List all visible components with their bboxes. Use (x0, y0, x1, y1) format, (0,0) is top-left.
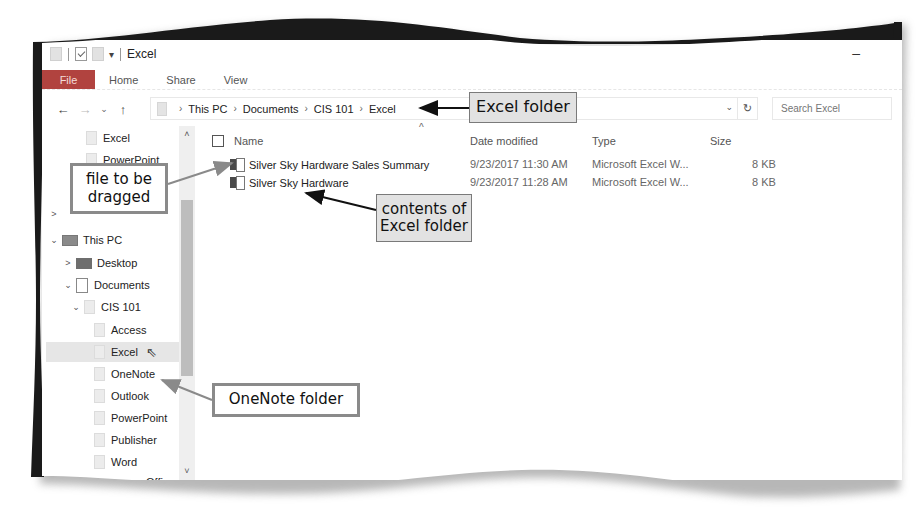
folder-icon (94, 345, 105, 359)
chevron-down-icon[interactable]: ⌄ (62, 280, 74, 290)
breadcrumb-excel[interactable]: Excel (369, 103, 396, 115)
tree-item-onenote[interactable]: OneNote (94, 364, 155, 384)
folder-icon (94, 367, 105, 381)
divider (120, 48, 121, 61)
tree-item-label: Excel (111, 346, 138, 358)
address-bar[interactable]: › This PC › Documents › CIS 101 › Excel … (150, 97, 758, 120)
breadcrumb-this-pc[interactable]: This PC (188, 103, 227, 115)
up-button[interactable]: ↑ (112, 102, 134, 117)
folder-icon (86, 131, 97, 145)
tree-item-excel-selected[interactable]: Excel ⇖ (46, 342, 179, 362)
file-row[interactable]: Silver Sky Hardware 9/23/2017 11:28 AM M… (204, 174, 804, 192)
tree-item-publisher[interactable]: Publisher (94, 430, 157, 450)
chevron-right-icon: › (179, 103, 182, 114)
folder-icon (94, 411, 105, 425)
tree-item-label: Desktop (97, 257, 137, 269)
forward-button[interactable]: → (74, 102, 96, 117)
mouse-pointer-icon: ⇖ (146, 345, 157, 360)
tab-home[interactable]: Home (95, 70, 152, 89)
date-modified-cell: 9/23/2017 11:30 AM (470, 158, 568, 170)
file-row[interactable]: Silver Sky Hardware Sales Summary 9/23/2… (204, 156, 804, 174)
date-modified-cell: 9/23/2017 11:28 AM (470, 176, 568, 188)
properties-icon[interactable] (50, 47, 62, 61)
breadcrumb-documents[interactable]: Documents (243, 103, 299, 115)
callout-excel-folder: Excel folder (469, 92, 577, 123)
tree-item-label: Documents (94, 279, 150, 291)
tree-item-label: Outlook (111, 390, 149, 402)
select-all-checkbox[interactable] (212, 135, 224, 147)
folder-icon (94, 389, 105, 403)
size-cell: 8 KB (752, 176, 776, 188)
folder-icon (157, 102, 167, 116)
tab-view[interactable]: View (210, 70, 262, 89)
minimize-button[interactable]: – (852, 45, 860, 61)
new-folder-icon[interactable] (75, 47, 87, 61)
folder-icon[interactable] (92, 47, 104, 61)
excel-file-icon (230, 158, 244, 171)
search-input[interactable] (772, 97, 892, 120)
tree-item-label: OneNote (111, 368, 155, 380)
file-list: ^ Name Date modified Type Size Silver Sk… (204, 126, 902, 480)
folder-icon (94, 455, 105, 469)
size-cell: 8 KB (752, 158, 776, 170)
tree-item-access[interactable]: Access (94, 320, 146, 340)
tree-item-label: Excel (103, 132, 130, 144)
file-name-cell: Silver Sky Hardware (230, 176, 349, 189)
chevron-right-icon[interactable]: › (304, 103, 307, 114)
window-title: Excel (127, 47, 156, 61)
tree-item-label: Office (146, 476, 175, 480)
tree-item-excel-quick[interactable]: Excel (86, 128, 130, 148)
folder-icon (94, 433, 105, 447)
tree-item-outlook[interactable]: Outlook (94, 386, 149, 406)
chevron-right-icon[interactable]: > (48, 209, 60, 219)
refresh-icon[interactable]: ↻ (737, 98, 757, 119)
tree-item-this-pc[interactable]: ⌄ This PC (48, 230, 122, 250)
tree-item-label: This PC (83, 234, 122, 246)
column-header-name[interactable]: Name (212, 132, 263, 150)
computer-icon (62, 235, 78, 246)
callout-text: contents of (382, 201, 466, 218)
back-button[interactable]: ← (52, 102, 74, 117)
scroll-thumb[interactable] (181, 200, 193, 376)
tree-item-label: PowerPoint (111, 412, 167, 424)
tree-item-powerpoint[interactable]: PowerPoint (94, 408, 167, 428)
recent-locations-dropdown[interactable]: ⌄ (96, 104, 112, 114)
callout-onenote-folder: OneNote folder (212, 383, 360, 417)
ribbon-tabs: File Home Share View (42, 70, 902, 90)
callout-text: Excel folder (380, 218, 468, 235)
chevron-right-icon[interactable]: > (62, 258, 74, 268)
tree-item-collapsed[interactable]: > (48, 204, 62, 224)
callout-text: file to be (86, 171, 152, 188)
type-cell: Microsoft Excel W... (592, 158, 689, 170)
tree-item-label: Word (111, 456, 137, 468)
tab-file[interactable]: File (42, 70, 95, 89)
folder-icon (94, 323, 105, 337)
column-header-date[interactable]: Date modified (470, 132, 538, 150)
column-header-type[interactable]: Type (592, 132, 616, 150)
documents-icon (76, 278, 88, 293)
title-bar: ▾ Excel – (42, 40, 902, 68)
tree-item-word[interactable]: Word (94, 452, 137, 472)
tree-item-documents[interactable]: ⌄ Documents (62, 275, 150, 295)
tree-item-desktop[interactable]: > Desktop (62, 253, 137, 273)
tree-item-office[interactable]: Office (146, 472, 175, 480)
customize-quick-access-dropdown[interactable]: ▾ (109, 49, 114, 60)
chevron-right-icon[interactable]: › (233, 103, 236, 114)
column-header-size[interactable]: Size (710, 132, 731, 150)
breadcrumb-cis101[interactable]: CIS 101 (314, 103, 354, 115)
tab-share[interactable]: Share (152, 70, 209, 89)
tree-item-label: CIS 101 (101, 301, 141, 313)
tree-item-cis101[interactable]: ⌄ CIS 101 (70, 297, 141, 317)
nav-pane-scrollbar[interactable]: ˄ ˅ (179, 126, 195, 480)
type-cell: Microsoft Excel W... (592, 176, 689, 188)
chevron-down-icon[interactable]: ⌄ (70, 302, 82, 312)
callout-contents-of-excel-folder: contents of Excel folder (376, 194, 472, 242)
scroll-down-arrow-icon[interactable]: ˅ (179, 466, 195, 476)
chevron-down-icon[interactable]: ⌄ (48, 235, 60, 245)
address-dropdown-icon[interactable]: ⌄ (725, 102, 733, 112)
divider (68, 48, 69, 61)
callout-text: dragged (88, 189, 151, 206)
chevron-right-icon[interactable]: › (360, 103, 363, 114)
scroll-up-arrow-icon[interactable]: ˄ (179, 129, 195, 139)
desktop-icon (76, 258, 92, 269)
